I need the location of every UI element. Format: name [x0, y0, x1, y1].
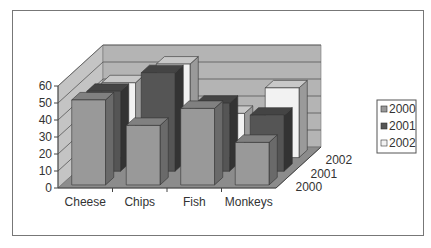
- legend: 200020012002: [377, 100, 416, 153]
- legend-swatch-2001: [381, 123, 387, 129]
- bar-chart-3d: 0102030405060 CheeseChipsFishMonkeys 200…: [0, 0, 431, 248]
- bar-front: [181, 108, 215, 185]
- bar-side: [106, 92, 114, 185]
- category-label: Cheese: [65, 195, 107, 209]
- y-tick-label: 0: [45, 181, 52, 195]
- y-tick-label: 40: [39, 113, 53, 127]
- bar-side: [215, 101, 223, 185]
- legend-label: 2002: [389, 136, 416, 150]
- depth-label: 2000: [296, 180, 323, 194]
- y-tick-label: 50: [39, 96, 53, 110]
- depth-label: 2002: [326, 153, 353, 167]
- bar-fish-2000: [181, 101, 223, 185]
- category-label: Chips: [124, 195, 155, 209]
- depth-label: 2001: [311, 167, 338, 181]
- bar-monkeys-2000: [235, 135, 277, 185]
- legend-label: 2000: [389, 102, 416, 116]
- y-tick-label: 10: [39, 164, 53, 178]
- legend-swatch-2002: [381, 140, 387, 146]
- bar-front: [72, 100, 106, 185]
- bar-side: [160, 118, 168, 185]
- bar-side: [299, 80, 307, 157]
- bar-side: [284, 108, 292, 172]
- category-label: Fish: [183, 195, 206, 209]
- category-label: Monkeys: [225, 195, 273, 209]
- legend-label: 2001: [389, 119, 416, 133]
- category-axis: CheeseChipsFishMonkeys: [58, 188, 276, 209]
- y-axis: 0102030405060: [39, 79, 58, 195]
- bar-chips-2000: [126, 118, 168, 185]
- y-tick-label: 60: [39, 79, 53, 93]
- bar-front: [235, 142, 269, 185]
- bar-front: [126, 125, 160, 185]
- y-tick-label: 30: [39, 130, 53, 144]
- legend-swatch-2000: [381, 106, 387, 112]
- y-tick-label: 20: [39, 147, 53, 161]
- bar-side: [269, 135, 277, 185]
- bar-cheese-2000: [72, 92, 114, 185]
